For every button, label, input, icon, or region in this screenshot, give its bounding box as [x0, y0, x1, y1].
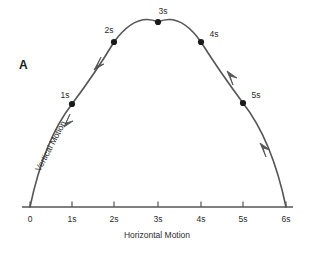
- x-tick-label-6: 6s: [282, 214, 291, 224]
- time-marker-2s: [111, 39, 117, 45]
- trajectory-curve: [30, 20, 286, 208]
- time-marker-label-3s: 3s: [159, 6, 168, 16]
- time-marker-5s: [240, 100, 246, 106]
- time-marker-3s: [155, 19, 161, 25]
- time-markers: [69, 19, 246, 107]
- time-marker-1s: [69, 101, 75, 107]
- x-tick-label-3: 3s: [154, 214, 163, 224]
- y-axis-title: Vertical Motion: [33, 119, 68, 173]
- projectile-motion-chart: 1s 2s 3s 4s 5s 0 1s 2s 3s 4s 5s 6s Horiz…: [0, 0, 310, 255]
- x-tick-label-5: 5s: [239, 214, 248, 224]
- direction-arrow-ascending-2: [94, 57, 104, 70]
- direction-arrow-descending-2: [260, 143, 270, 157]
- x-tick-label-0: 0: [28, 214, 33, 224]
- projectile-motion-figure: 1s 2s 3s 4s 5s 0 1s 2s 3s 4s 5s 6s Horiz…: [0, 0, 310, 255]
- time-marker-label-1s: 1s: [61, 90, 70, 100]
- time-marker-label-4s: 4s: [210, 29, 219, 39]
- x-axis-title: Horizontal Motion: [124, 230, 190, 240]
- panel-letter: A: [19, 58, 28, 72]
- time-marker-label-5s: 5s: [252, 90, 261, 100]
- x-tick-label-1: 1s: [68, 214, 77, 224]
- x-axis-ticks: [30, 202, 286, 208]
- time-marker-label-2s: 2s: [105, 25, 114, 35]
- x-tick-label-2: 2s: [110, 214, 119, 224]
- x-tick-label-4: 4s: [197, 214, 206, 224]
- time-marker-4s: [198, 39, 204, 45]
